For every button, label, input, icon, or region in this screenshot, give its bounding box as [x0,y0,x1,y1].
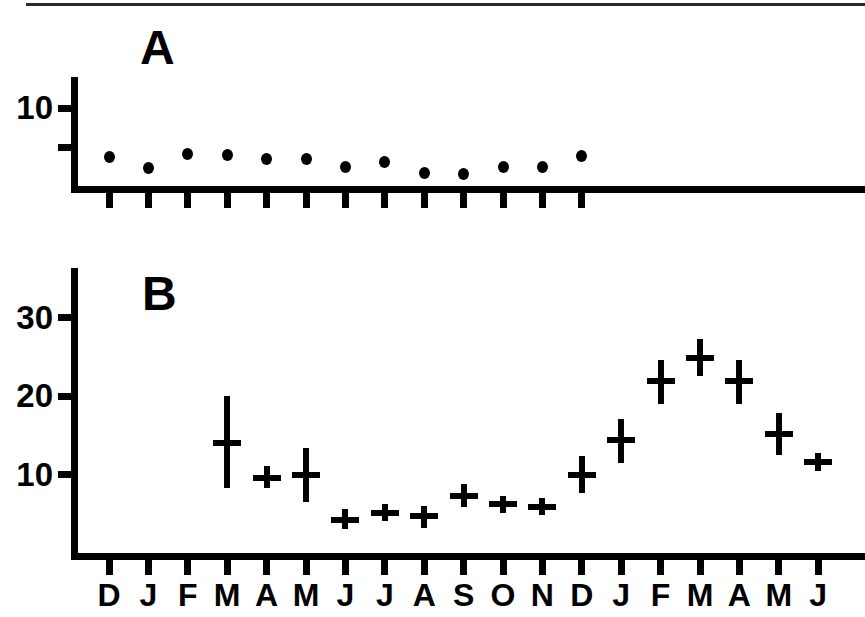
month-label-0: D [92,579,126,611]
mean-marker-horizontal [371,510,399,516]
month-label-1: J [131,579,165,611]
x-tick-12 [578,560,585,575]
y-tick-30 [58,314,72,321]
data-point [261,153,272,165]
mean-marker-horizontal [528,504,556,510]
x-tick-1 [145,193,152,208]
data-point [419,167,430,179]
mean-marker-horizontal [607,437,635,443]
y-tick-5 [58,144,72,151]
x-axis-line [71,186,865,193]
data-point [379,156,390,168]
x-tick-12 [578,193,585,208]
x-tick-5 [303,560,310,575]
mean-marker-horizontal [765,431,793,437]
month-label-4: A [250,579,284,611]
data-point [498,161,509,173]
x-tick-9 [460,193,467,208]
y-tick-10 [58,105,72,112]
data-point [143,162,154,174]
x-tick-18 [815,560,822,575]
x-tick-6 [342,560,349,575]
month-label-14: F [644,579,678,611]
y-tick-label-20: 20 [0,379,53,412]
x-axis-line [71,553,865,560]
x-tick-8 [421,560,428,575]
month-label-10: O [486,579,520,611]
month-label-17: M [762,579,796,611]
month-label-12: D [565,579,599,611]
month-label-11: N [525,579,559,611]
x-tick-17 [775,560,782,575]
x-tick-13 [618,560,625,575]
month-label-8: A [407,579,441,611]
y-tick-label-10: 10 [0,91,53,124]
y-tick-20 [58,393,72,400]
x-tick-4 [263,193,270,208]
month-label-2: F [171,579,205,611]
x-tick-15 [697,560,704,575]
mean-marker-horizontal [725,378,753,384]
mean-marker-horizontal [292,472,320,478]
x-tick-1 [145,560,152,575]
mean-marker-horizontal [647,378,675,384]
x-tick-6 [342,193,349,208]
panel-b-label: B [142,270,177,318]
x-tick-8 [421,193,428,208]
x-tick-5 [303,193,310,208]
data-point [458,168,469,180]
month-label-16: A [722,579,756,611]
mean-marker-horizontal [568,472,596,478]
x-tick-14 [657,560,664,575]
figure-canvas: A 10 B 102030 DJFMAMJJASONDJFMAMJ [0,0,865,617]
panel-a-label: A [140,24,175,72]
mean-marker-horizontal [410,513,438,519]
data-point [182,148,193,160]
x-tick-10 [500,560,507,575]
mean-marker-horizontal [213,440,241,446]
y-tick-label-10: 10 [0,458,53,491]
mean-marker-horizontal [804,459,832,465]
x-tick-9 [460,560,467,575]
x-tick-2 [184,560,191,575]
data-point [301,153,312,165]
data-point [576,150,587,162]
mean-marker-horizontal [331,517,359,523]
x-tick-7 [381,193,388,208]
x-tick-11 [539,560,546,575]
mean-marker-horizontal [686,355,714,361]
data-point [340,161,351,173]
y-axis-line [71,268,78,560]
y-tick-label-30: 30 [0,301,53,334]
data-point [104,151,115,163]
x-tick-2 [184,193,191,208]
x-tick-0 [106,560,113,575]
x-tick-3 [224,193,231,208]
mean-marker-horizontal [450,493,478,499]
mean-marker-horizontal [253,475,281,481]
month-label-5: M [289,579,323,611]
month-label-15: M [683,579,717,611]
month-label-7: J [368,579,402,611]
x-tick-11 [539,193,546,208]
data-point [537,161,548,173]
month-label-18: J [801,579,835,611]
x-tick-16 [736,560,743,575]
x-tick-3 [224,560,231,575]
y-tick-10 [58,471,72,478]
data-point [222,149,233,161]
x-tick-10 [500,193,507,208]
x-tick-7 [381,560,388,575]
x-tick-4 [263,560,270,575]
month-label-6: J [328,579,362,611]
month-label-9: S [447,579,481,611]
top-rule-divider [26,3,865,6]
month-label-13: J [604,579,638,611]
month-label-3: M [210,579,244,611]
y-axis-line [71,77,78,193]
mean-marker-horizontal [489,501,517,507]
x-tick-0 [106,193,113,208]
